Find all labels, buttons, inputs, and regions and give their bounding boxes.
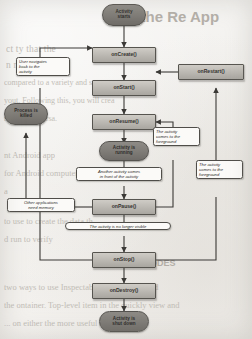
node-on-create[interactable]: onCreate() — [92, 47, 156, 63]
user-navigates-back-line-2: activity — [19, 69, 67, 74]
note-another-activity-front[interactable]: Another activity comes in front of the a… — [76, 167, 162, 181]
other-apps-need-memory-line-1: need memory — [10, 205, 72, 210]
note-user-navigates-back[interactable]: User navigates back to the activity — [16, 57, 70, 76]
note-no-longer-visible[interactable]: The activity is no longer visible — [65, 222, 171, 230]
process-killed-line-1: killed — [14, 114, 37, 119]
node-on-pause[interactable]: onPause() — [92, 199, 156, 215]
note-foreground-from-pause[interactable]: The activity comes to the foreground — [153, 127, 200, 146]
foreground-from-stop-line-2: foreground — [199, 172, 240, 177]
node-on-destroy[interactable]: onDestroy() — [92, 283, 156, 299]
node-on-resume[interactable]: onResume() — [92, 114, 156, 130]
no-longer-visible-line-0: The activity is no longer visible — [68, 224, 168, 229]
node-activity-shut-down[interactable]: Activity is shut down — [99, 311, 149, 332]
another-activity-front-line-1: in front of the activity — [79, 174, 159, 179]
scanned-page: ng the Re App ct ty that the n m mo comp… — [0, 0, 252, 339]
node-on-stop[interactable]: onStop() — [92, 252, 156, 268]
note-foreground-from-stop[interactable]: The activity comes to the foreground — [196, 160, 243, 179]
node-activity-starts[interactable]: Activity starts — [102, 4, 146, 26]
node-activity-running[interactable]: Activity is running — [99, 141, 149, 161]
activity-lifecycle-diagram: Activity starts onCreate() User navigate… — [0, 0, 252, 339]
foreground-from-pause-line-2: foreground — [156, 139, 197, 144]
activity-running-line-1: running — [113, 151, 135, 156]
activity-shut-down-line-1: shut down — [112, 322, 135, 327]
note-other-apps-need-memory[interactable]: Other applications need memory — [7, 198, 75, 212]
node-on-restart[interactable]: onRestart() — [178, 64, 244, 80]
node-on-start[interactable]: onStart() — [92, 80, 156, 96]
node-process-killed[interactable]: Process is killed — [4, 103, 48, 125]
activity-starts-line-1: starts — [116, 15, 133, 20]
